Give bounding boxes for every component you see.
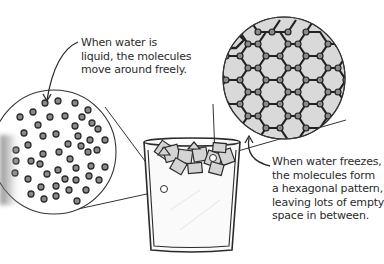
ice-caption-line: leaving lots of empty [272,196,384,210]
ice-caption-line: space in between. [272,209,384,223]
ice-caption-line: a hexagonal pattern, [272,182,384,196]
page-curl-shadow [0,135,22,205]
glass-of-ice-water [144,138,240,252]
liquid-caption-line: liquid, the molecules [81,50,191,64]
ice-caption-line: When water freezes, [272,155,384,169]
ice-hexagonal-lattice-magnifier [206,17,349,140]
ice-caption-line: the molecules form [272,169,384,183]
liquid-caption-line: When water is [81,36,191,50]
liquid-caption-line: move around freely. [81,63,191,77]
liquid-caption: When water is liquid, the molecules move… [81,36,191,77]
arrow-ice [245,136,270,166]
ice-caption: When water freezes, the molecules form a… [272,155,384,223]
